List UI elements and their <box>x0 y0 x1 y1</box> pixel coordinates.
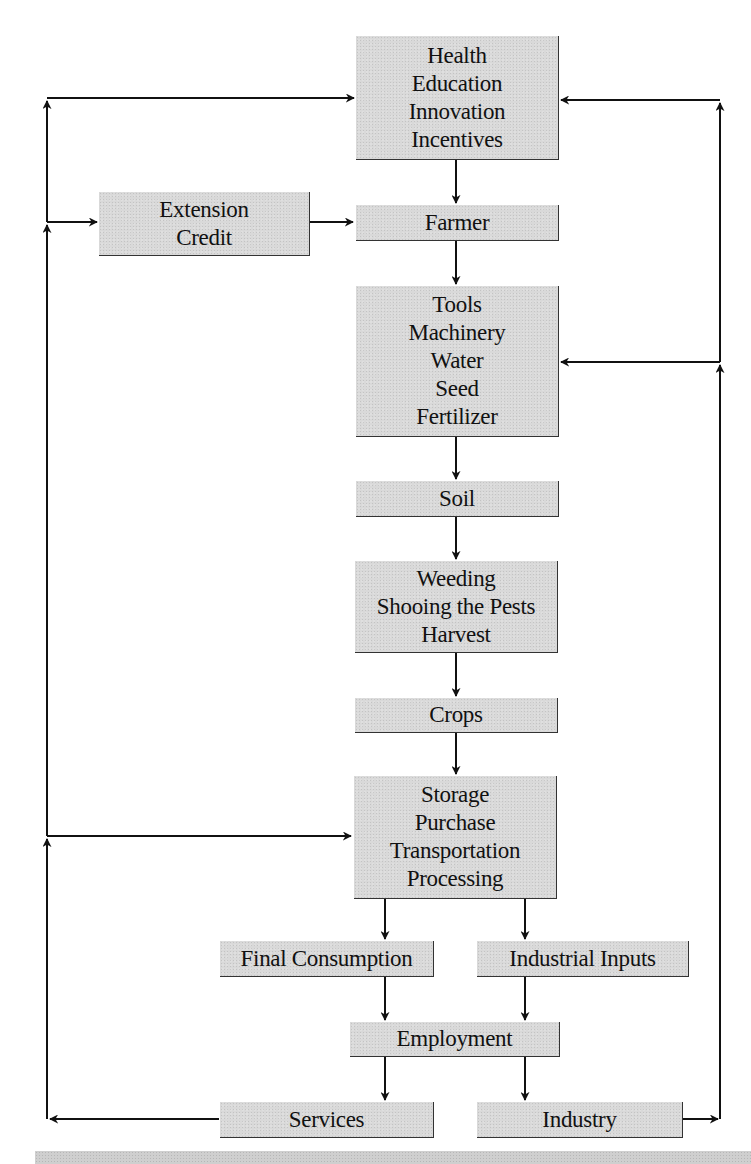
node-crops: Crops <box>355 698 558 733</box>
node-tools-line: Machinery <box>409 319 506 347</box>
node-tools-line: Water <box>431 347 484 375</box>
node-final-consumption-line: Final Consumption <box>241 945 413 973</box>
node-industry: Industry <box>477 1102 683 1138</box>
node-health-line: Incentives <box>411 126 503 154</box>
node-tools-line: Fertilizer <box>416 403 497 431</box>
node-weeding: Weeding Shooing the Pests Harvest <box>355 561 558 653</box>
node-services-line: Services <box>289 1106 365 1134</box>
node-employment-line: Employment <box>397 1025 513 1053</box>
caption-strip <box>35 1151 751 1164</box>
node-storage-line: Processing <box>407 865 504 893</box>
node-health-line: Health <box>427 42 487 70</box>
node-soil: Soil <box>356 481 559 517</box>
node-industrial-inputs: Industrial Inputs <box>477 941 689 977</box>
node-final-consumption: Final Consumption <box>220 941 434 977</box>
node-storage-line: Transportation <box>390 837 520 865</box>
node-storage-line: Purchase <box>415 809 496 837</box>
flow-diagram: Health Education Innovation Incentives E… <box>0 0 751 1164</box>
node-weeding-line: Shooing the Pests <box>377 593 535 621</box>
node-weeding-line: Weeding <box>416 565 495 593</box>
node-farmer: Farmer <box>356 205 559 241</box>
node-crops-line: Crops <box>429 701 482 729</box>
node-extension-line: Credit <box>176 224 232 252</box>
node-tools: Tools Machinery Water Seed Fertilizer <box>356 286 559 437</box>
node-tools-line: Seed <box>435 375 479 403</box>
node-weeding-line: Harvest <box>421 621 490 649</box>
node-soil-line: Soil <box>439 485 475 513</box>
node-farmer-line: Farmer <box>425 209 490 237</box>
node-extension: Extension Credit <box>99 192 310 256</box>
node-storage-line: Storage <box>421 781 489 809</box>
node-tools-line: Tools <box>432 291 481 319</box>
node-employment: Employment <box>350 1022 560 1057</box>
node-storage: Storage Purchase Transportation Processi… <box>354 776 557 899</box>
node-industry-line: Industry <box>542 1106 616 1134</box>
node-services: Services <box>220 1102 434 1138</box>
node-health: Health Education Innovation Incentives <box>356 36 559 160</box>
node-industrial-inputs-line: Industrial Inputs <box>509 945 655 973</box>
node-health-line: Innovation <box>409 98 506 126</box>
node-extension-line: Extension <box>159 196 248 224</box>
node-health-line: Education <box>412 70 503 98</box>
